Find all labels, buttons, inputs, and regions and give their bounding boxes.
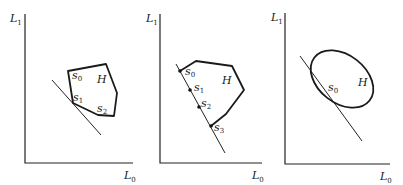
set-label-H: H — [221, 74, 232, 87]
panel-1: L1 L0 H s0 s1 s2 — [9, 12, 136, 184]
axes — [25, 14, 133, 163]
point-label-s0: s0 — [185, 65, 195, 79]
x-axis-label: L0 — [379, 170, 392, 185]
point-label-s1: s1 — [73, 91, 83, 105]
point-label-s2: s2 — [201, 97, 211, 111]
convex-set-ellipse — [300, 39, 385, 120]
axes — [160, 14, 262, 163]
x-axis-label: L0 — [123, 169, 136, 184]
panel-2: L1 L0 H s0 s1 s2 s3 — [145, 12, 264, 184]
point-label-s2: s2 — [97, 102, 107, 116]
point-s3 — [209, 124, 213, 128]
point-label-s0: s0 — [328, 81, 338, 95]
x-axis-label: L0 — [251, 169, 264, 184]
panel-3: L1 L0 H s0 — [270, 11, 392, 185]
point-label-s0: s0 — [72, 69, 82, 83]
y-axis-label: L1 — [145, 12, 158, 27]
set-label-H: H — [96, 73, 107, 86]
supporting-line — [52, 80, 101, 135]
supporting-line — [300, 56, 362, 141]
y-axis-label: L1 — [9, 12, 22, 27]
point-label-s3: s3 — [214, 121, 224, 135]
y-axis-label: L1 — [270, 11, 283, 26]
diagram-canvas: L1 L0 H s0 s1 s2 L1 L0 H s0 s1 s2 s3 L1 … — [0, 0, 403, 185]
set-label-H: H — [357, 76, 368, 89]
point-s0 — [178, 69, 182, 73]
point-label-s1: s1 — [194, 81, 204, 95]
point-s1 — [188, 88, 192, 92]
